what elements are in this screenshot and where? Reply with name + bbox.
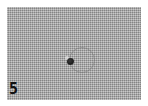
dark-particle [67, 58, 74, 65]
micrograph-panel [7, 7, 141, 100]
panel-label: 5 [9, 82, 18, 97]
